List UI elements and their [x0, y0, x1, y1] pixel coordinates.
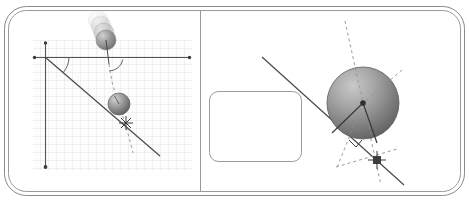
impact-point-marker: [119, 116, 133, 130]
physics-figure: [0, 0, 469, 207]
sphere-contact-normal-panel: [210, 21, 405, 185]
y-axis-endpoint-bottom: [44, 165, 48, 169]
falling-sphere: [108, 93, 130, 115]
x-axis-endpoint-right: [188, 56, 191, 59]
empty-annotation-box: [210, 92, 302, 162]
projectile-on-incline-panel: [33, 10, 192, 170]
large-sphere: [327, 67, 399, 143]
sphere-center-dot: [360, 100, 366, 106]
x-axis-endpoint-left: [33, 56, 36, 59]
figure-canvas: [0, 0, 469, 207]
y-axis-endpoint-top: [44, 41, 47, 44]
